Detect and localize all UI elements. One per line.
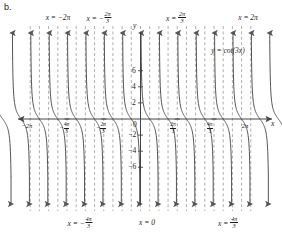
top-asymptote-label: x = −2π (46, 14, 71, 22)
function-label: y = cot(3x) (211, 47, 244, 55)
y-tick-label: −6 (128, 163, 136, 171)
y-tick-label: 6 (132, 67, 136, 75)
y-tick-label: 4 (132, 83, 136, 91)
y-tick-label: 2 (132, 99, 136, 107)
axes-group (18, 32, 272, 205)
x-tick-label: −4π3 (60, 122, 69, 134)
y-tick-label: −4 (128, 147, 136, 155)
top-asymptote-label: x = −2π3 (86, 11, 111, 25)
cotangent-graph (0, 0, 282, 232)
x-tick-label: −2π (21, 123, 32, 130)
bottom-asymptote-label: x = 0 (139, 219, 155, 227)
x-tick-label: 4π3 (207, 122, 213, 134)
top-asymptote-label: x = 2π (238, 14, 258, 22)
bottom-asymptote-label: x = −4π3 (67, 216, 92, 230)
y-tick-label: 0 (133, 121, 137, 129)
y-axis-name: y (133, 22, 136, 30)
x-axis-name: x (271, 120, 274, 128)
x-tick-label: 2π3 (170, 122, 176, 134)
x-tick-label: −2π3 (97, 122, 106, 134)
top-asymptote-label: x = 2π3 (166, 11, 186, 25)
x-tick-label: 2π (242, 123, 249, 130)
bottom-asymptote-label: x = 4π3 (218, 216, 238, 230)
y-tick-label: −2 (128, 131, 136, 139)
